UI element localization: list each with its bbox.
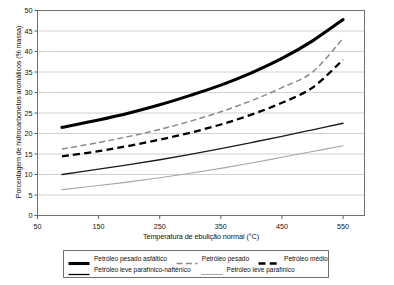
y-tick-label: 30 [25,88,33,97]
plot-area: 05101520253035404550 50150250350450550 [0,0,394,232]
legend-line-sample-icon [258,254,280,263]
series-line [62,20,343,128]
legend-line-sample-icon [68,265,90,274]
y-tick-label: 40 [25,47,33,56]
y-axis-tick-labels: 05101520253035404550 [25,6,33,220]
legend-label: Petróleo médio [284,255,328,262]
x-tick-label: 250 [154,222,166,231]
legend-label: Petróleo pesado [202,255,249,262]
y-tick-label: 20 [25,129,33,138]
y-tick-label: 10 [25,170,33,179]
y-tick-label: 0 [29,211,33,220]
y-tick-label: 35 [25,68,33,77]
legend-row: Petróleo pesado asfálticoPetróleo pesado… [68,253,324,264]
x-axis-tick-labels: 50150250350450550 [34,222,350,231]
legend-entry[interactable]: Petróleo pesado asfáltico [68,254,167,263]
x-axis-title: Temperatura de ebulição normal (°C) [37,232,365,241]
legend-label: Petróleo leve parafínico [227,266,295,273]
x-axis-tick-marks [38,216,344,220]
series-line [62,123,343,174]
aromatic-hydrocarbons-chart: Porcentagem de hidrocarbonetos aromático… [0,0,394,285]
legend-entry[interactable]: Petróleo leve parafínico-nafténico [68,265,191,274]
x-tick-label: 450 [276,222,288,231]
x-tick-label: 550 [337,222,349,231]
data-series-lines [62,20,343,190]
x-tick-label: 350 [215,222,227,231]
chart-legend: Petróleo pesado asfálticoPetróleo pesado… [63,250,329,278]
legend-entry[interactable]: Petróleo pesado [176,254,249,263]
y-tick-label: 50 [25,6,33,15]
y-tick-label: 45 [25,27,33,36]
legend-label: Petróleo leve parafínico-nafténico [94,266,191,273]
legend-line-sample-icon [68,254,90,263]
y-tick-label: 15 [25,150,33,159]
legend-line-sample-icon [201,265,223,274]
legend-swatch-solid-light [201,270,223,279]
legend-entry[interactable]: Petróleo médio [258,254,328,263]
legend-swatch-solid-thin [68,270,90,279]
y-tick-label: 5 [29,191,33,200]
x-tick-label: 50 [34,222,42,231]
legend-entry[interactable]: Petróleo leve parafínico [201,265,295,274]
x-tick-label: 150 [93,222,105,231]
y-tick-label: 25 [25,109,33,118]
legend-line-sample-icon [176,254,198,263]
legend-label: Petróleo pesado asfáltico [94,255,167,262]
